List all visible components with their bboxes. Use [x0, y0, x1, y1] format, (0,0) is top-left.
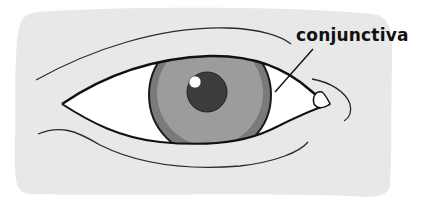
eye-diagram: conjunctiva: [0, 0, 423, 204]
pupil-highlight: [189, 76, 201, 88]
conjunctiva-label: conjunctiva: [296, 27, 409, 44]
